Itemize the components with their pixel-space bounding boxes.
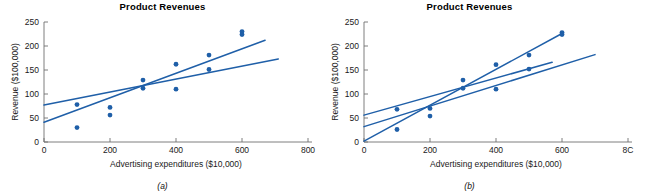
x-tick-label: 600: [555, 145, 569, 155]
figure-two-scatter-panels: Product Revenues 02004006008000501001502…: [0, 0, 645, 193]
data-point: [174, 87, 179, 92]
x-tick-label: 0: [42, 145, 47, 155]
data-point: [395, 127, 400, 132]
fit-line-lower-fit: [364, 55, 595, 127]
data-point: [461, 86, 466, 91]
data-point: [494, 87, 499, 92]
y-tick-label: 250: [345, 17, 359, 27]
y-axis-title: Revenue ($100,000): [330, 43, 340, 121]
y-tick-label: 100: [345, 89, 359, 99]
y-tick-label: 250: [25, 17, 39, 27]
y-tick-label: 100: [25, 89, 39, 99]
fit-line-middle-fit: [364, 62, 552, 115]
fit-line-flatter-fit: [44, 59, 278, 105]
panel-caption-a: (a): [0, 181, 325, 191]
y-tick-label: 0: [34, 137, 39, 147]
x-tick-label: 8C: [623, 145, 634, 155]
y-tick-label: 150: [345, 65, 359, 75]
data-point: [560, 32, 565, 37]
data-point: [428, 114, 433, 119]
data-point: [108, 113, 113, 118]
data-point: [75, 125, 80, 130]
data-point: [207, 53, 212, 58]
data-point: [240, 32, 245, 37]
scatter-plot-a: 0200400600800050100150200250Advertising …: [0, 0, 325, 175]
x-tick-label: 800: [301, 145, 315, 155]
data-point: [108, 105, 113, 110]
y-tick-label: 50: [350, 113, 360, 123]
x-axis-title: Advertising expenditures ($10,000): [110, 159, 242, 169]
data-point: [207, 67, 212, 72]
data-point: [428, 106, 433, 111]
x-tick-label: 600: [235, 145, 249, 155]
panel-caption-b: (b): [320, 181, 645, 191]
chart-panel-b: Product Revenues 02004006008C05010015020…: [320, 0, 645, 193]
data-point: [141, 86, 146, 91]
x-tick-label: 400: [169, 145, 183, 155]
y-axis-title: Revenue ($100,000): [10, 43, 20, 121]
y-tick-label: 50: [30, 113, 40, 123]
y-tick-label: 200: [25, 41, 39, 51]
data-point: [494, 62, 499, 67]
x-tick-label: 200: [103, 145, 117, 155]
x-tick-label: 0: [362, 145, 367, 155]
data-point: [395, 107, 400, 112]
x-axis-title: Advertising expenditures ($10,000): [430, 159, 562, 169]
data-point: [174, 62, 179, 67]
chart-panel-a: Product Revenues 02004006008000501001502…: [0, 0, 325, 193]
y-tick-label: 200: [345, 41, 359, 51]
data-point: [527, 67, 532, 72]
y-tick-label: 150: [25, 65, 39, 75]
fit-line-steeper-fit: [44, 40, 265, 122]
scatter-plot-b: 02004006008C050100150200250Advertising e…: [320, 0, 645, 175]
data-point: [461, 78, 466, 83]
data-point: [527, 53, 532, 58]
y-tick-label: 0: [354, 137, 359, 147]
x-tick-label: 400: [489, 145, 503, 155]
data-point: [75, 102, 80, 107]
data-point: [141, 78, 146, 83]
x-tick-label: 200: [423, 145, 437, 155]
